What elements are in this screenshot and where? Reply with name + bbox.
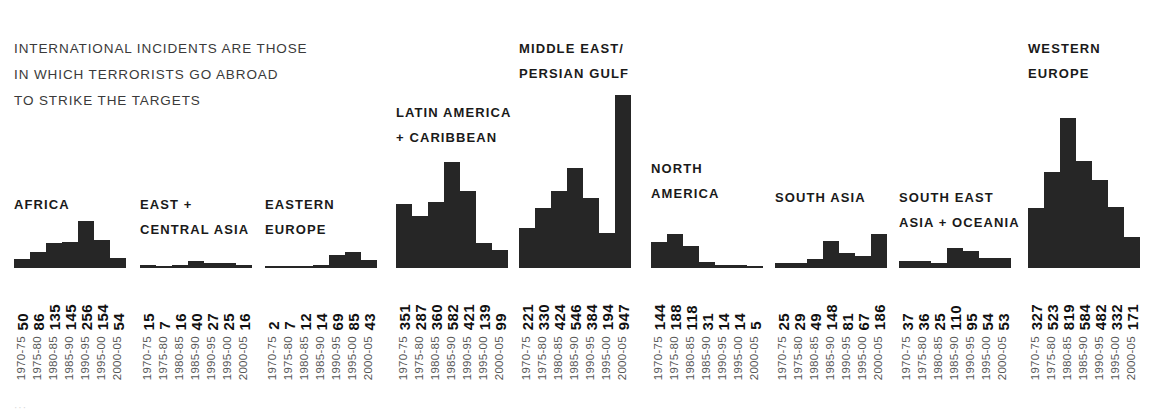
bar[interactable]: [871, 234, 887, 268]
bar[interactable]: [329, 255, 345, 268]
value-label-cell: 135: [46, 278, 62, 330]
value-label-cell: 54: [979, 278, 995, 330]
value-label-cell: 2: [265, 278, 281, 330]
scan-artifact: ···: [14, 402, 27, 413]
bar[interactable]: [855, 256, 871, 268]
bar[interactable]: [567, 168, 583, 268]
x-axis-tick-label: 1995-00: [478, 336, 490, 380]
value-label-cell: 188: [667, 278, 683, 330]
value-label-cell: 482: [1092, 278, 1108, 330]
bar[interactable]: [1108, 207, 1124, 268]
bar[interactable]: [823, 241, 839, 268]
x-axis-tick-label: 1985-90: [446, 336, 458, 380]
bar[interactable]: [140, 265, 156, 268]
bar[interactable]: [683, 246, 699, 268]
bar[interactable]: [444, 162, 460, 268]
bar[interactable]: [236, 265, 252, 268]
bar[interactable]: [839, 253, 855, 268]
value-label: 188: [668, 304, 683, 330]
value-label-cell: 584: [1076, 278, 1092, 330]
value-label-cell: 49: [807, 278, 823, 330]
bar[interactable]: [519, 228, 535, 268]
bar[interactable]: [345, 252, 361, 268]
bar[interactable]: [807, 259, 823, 268]
value-label-cell: 50: [14, 278, 30, 330]
bar[interactable]: [899, 261, 915, 268]
bar[interactable]: [297, 266, 313, 268]
bar[interactable]: [535, 208, 551, 268]
bar-series: [1028, 0, 1140, 268]
bar[interactable]: [46, 243, 62, 268]
bar[interactable]: [412, 216, 428, 268]
bar[interactable]: [220, 263, 236, 268]
x-axis-tick-cell: 1970-75: [14, 336, 30, 380]
bar[interactable]: [715, 265, 731, 268]
bar[interactable]: [731, 265, 747, 268]
value-label: 37: [900, 313, 915, 331]
bar[interactable]: [396, 204, 412, 268]
bar[interactable]: [1044, 172, 1060, 268]
bar[interactable]: [931, 263, 947, 268]
x-axis-tick-label: 1975-80: [793, 336, 805, 380]
bar[interactable]: [78, 221, 94, 268]
bar[interactable]: [204, 263, 220, 268]
bar[interactable]: [110, 258, 126, 268]
bar[interactable]: [265, 266, 281, 268]
bar[interactable]: [775, 263, 791, 268]
x-axis-tick-cell: 1970-75: [265, 336, 281, 380]
bar[interactable]: [615, 95, 631, 268]
x-axis-tick-label: 1975-80: [283, 336, 295, 380]
bar[interactable]: [747, 266, 763, 268]
value-label-cell: 5: [747, 278, 763, 330]
bar-series: [651, 0, 763, 268]
bar[interactable]: [1124, 237, 1140, 268]
bar[interactable]: [947, 248, 963, 268]
bar[interactable]: [172, 265, 188, 268]
value-label-cell: 332: [1108, 278, 1124, 330]
bar[interactable]: [361, 260, 377, 268]
bar[interactable]: [460, 191, 476, 268]
bar[interactable]: [551, 191, 567, 268]
x-axis-tick-row: 1970-751975-801980-851985-901990-951995-…: [396, 336, 508, 380]
bar[interactable]: [979, 258, 995, 268]
bar-series: [396, 0, 508, 268]
bar[interactable]: [995, 258, 1011, 268]
bar[interactable]: [1028, 208, 1044, 268]
bar[interactable]: [476, 243, 492, 268]
bar[interactable]: [583, 198, 599, 268]
bar[interactable]: [281, 266, 297, 268]
bar[interactable]: [699, 262, 715, 268]
bar[interactable]: [428, 202, 444, 268]
bar[interactable]: [667, 234, 683, 268]
bar[interactable]: [1092, 180, 1108, 268]
bar[interactable]: [188, 261, 204, 268]
value-label: 14: [716, 313, 731, 331]
value-label: 7: [157, 321, 172, 330]
bar[interactable]: [791, 263, 807, 268]
bar[interactable]: [94, 240, 110, 268]
bar[interactable]: [915, 261, 931, 268]
x-axis-tick-label: 2000-05: [617, 336, 629, 380]
bar[interactable]: [963, 251, 979, 268]
x-axis-tick-cell: 1975-80: [281, 336, 297, 380]
x-axis-tick-cell: 1970-75: [899, 336, 915, 380]
bar[interactable]: [1060, 118, 1076, 268]
bar[interactable]: [492, 250, 508, 268]
bar[interactable]: [30, 252, 46, 268]
x-axis-tick-label: 1995-00: [733, 336, 745, 380]
bar[interactable]: [62, 242, 78, 268]
x-axis-tick-label: 1980-85: [685, 336, 697, 380]
bar[interactable]: [156, 266, 172, 268]
bar[interactable]: [14, 259, 30, 268]
bar[interactable]: [651, 242, 667, 268]
x-axis-tick-cell: 2000-05: [1124, 336, 1140, 380]
bar[interactable]: [599, 233, 615, 268]
x-axis-tick-row: 1970-751975-801980-851985-901990-951995-…: [899, 336, 1011, 380]
x-axis-tick-cell: 1995-00: [855, 336, 871, 380]
bar[interactable]: [1076, 161, 1092, 268]
x-axis-tick-cell: 1985-90: [444, 336, 460, 380]
value-label: 99: [493, 313, 508, 331]
x-axis-tick-label: 1990-95: [585, 336, 597, 380]
bar[interactable]: [313, 265, 329, 268]
x-axis-tick-cell: 1995-00: [731, 336, 747, 380]
